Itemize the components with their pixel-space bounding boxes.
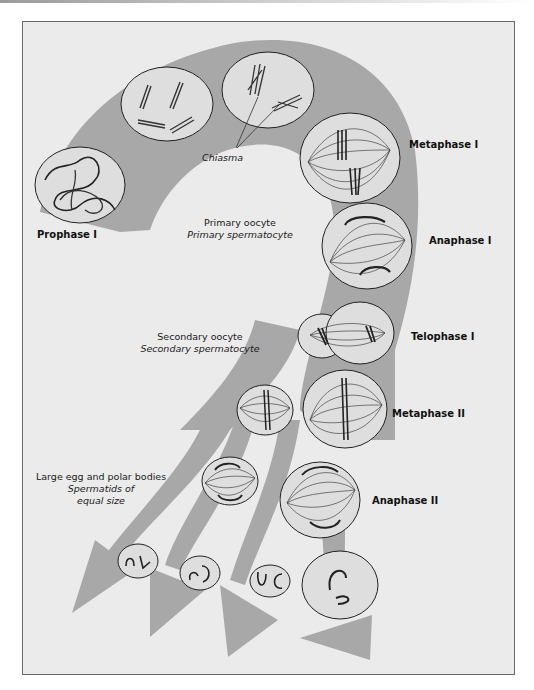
label-telophase-1: Telophase I bbox=[411, 331, 475, 343]
anaphase-2-cell-small bbox=[202, 457, 258, 505]
label-anaphase-2: Anaphase II bbox=[372, 495, 438, 507]
polar-body-1 bbox=[118, 544, 158, 578]
label-secondary-spermatocyte: Secondary spermatocyte bbox=[140, 343, 260, 355]
meiosis-diagram bbox=[0, 0, 534, 690]
label-secondary-oocyte: Secondary oocyte bbox=[140, 331, 260, 343]
label-large-egg-polar-bodies: Large egg and polar bodies bbox=[36, 471, 166, 483]
metaphase-2-cell-large bbox=[303, 370, 387, 448]
polar-body-3 bbox=[250, 565, 290, 597]
prophase-cell-2 bbox=[121, 67, 213, 141]
label-primary-spermatocyte: Primary spermatocyte bbox=[180, 229, 300, 241]
label-metaphase-1: Metaphase I bbox=[409, 139, 478, 151]
metaphase-1-cell bbox=[300, 113, 400, 203]
telophase-1-cell bbox=[298, 302, 394, 364]
metaphase-2-cell-small bbox=[237, 385, 293, 435]
label-prophase-1: Prophase I bbox=[37, 229, 97, 241]
label-anaphase-1: Anaphase I bbox=[429, 235, 492, 247]
egg-cell bbox=[302, 551, 378, 619]
polar-body-2 bbox=[180, 556, 220, 590]
label-chiasma: Chiasma bbox=[202, 152, 243, 164]
label-primary-oocyte: Primary oocyte bbox=[180, 217, 300, 229]
prophase-1-cell bbox=[35, 147, 125, 223]
anaphase-2-cell-large bbox=[280, 462, 360, 538]
label-metaphase-2: Metaphase II bbox=[392, 408, 465, 420]
label-spermatids-of: Spermatids of bbox=[36, 483, 166, 495]
label-equal-size: equal size bbox=[36, 495, 166, 507]
anaphase-1-cell bbox=[322, 203, 412, 289]
